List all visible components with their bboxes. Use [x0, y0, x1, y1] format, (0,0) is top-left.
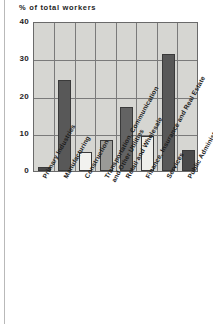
x-axis-labels: Primary IndustriesManufacturingConstruct…	[0, 172, 213, 324]
y-tick-20: 20	[5, 92, 29, 101]
chart-figure: % of total workers 40 30 20 10 0 Primary…	[0, 0, 213, 324]
y-tick-10: 10	[5, 129, 29, 138]
axis-title: % of total workers	[19, 3, 96, 12]
y-tick-40: 40	[5, 17, 29, 26]
y-tick-30: 30	[5, 54, 29, 63]
